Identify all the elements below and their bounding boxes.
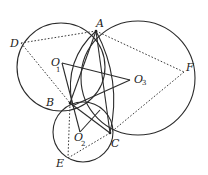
- segment-fc: [110, 72, 184, 133]
- label-c: C: [111, 137, 120, 150]
- geometry-diagram: A D F B C E O 1 O 3 O 2: [0, 0, 208, 175]
- point-a: [95, 30, 98, 33]
- label-e: E: [55, 157, 64, 170]
- label-b: B: [45, 96, 54, 109]
- label-f: F: [185, 61, 194, 74]
- point-b: [69, 102, 72, 105]
- label-o3-sub: 3: [142, 79, 146, 87]
- circle-o1: [17, 23, 105, 111]
- label-o1-sub: 1: [56, 66, 60, 74]
- arc-a-to-c: [96, 31, 114, 133]
- segment-db: [21, 43, 70, 103]
- segment-da: [21, 31, 96, 43]
- segment-be: [68, 103, 70, 158]
- label-d: D: [9, 37, 19, 50]
- label-a: A: [95, 17, 104, 30]
- point-c: [109, 132, 112, 135]
- label-o2-sub: 2: [81, 140, 85, 148]
- segment-o3-b: [72, 80, 130, 106]
